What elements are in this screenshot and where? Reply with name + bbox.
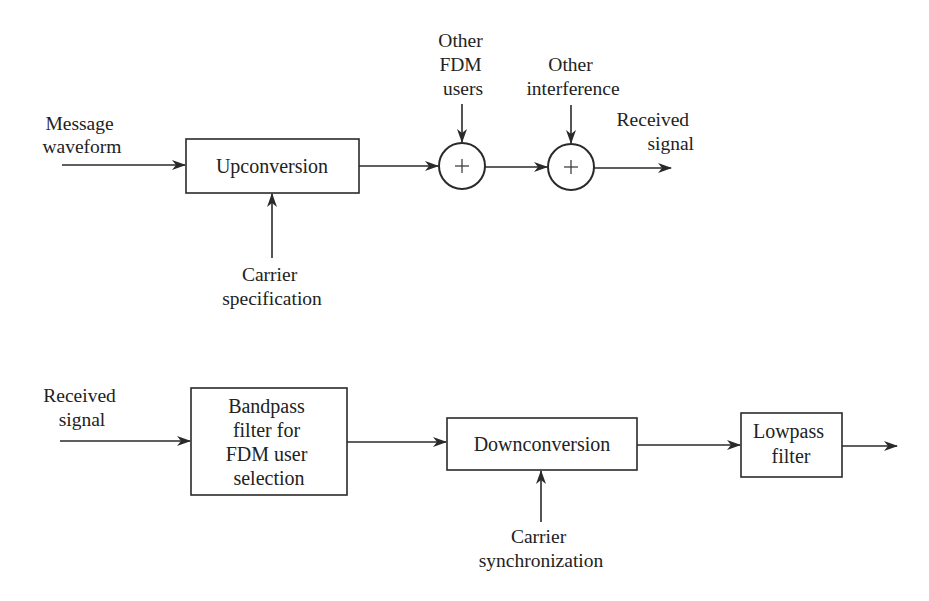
other-fdm-users-label: Other FDM users (438, 30, 487, 99)
upconversion-block: Upconversion (186, 139, 359, 193)
bandpass-filter-block: Bandpass filter for FDM user selection (191, 388, 347, 495)
other-interference-label: Other interference (526, 54, 619, 99)
lowpass-filter-block: Lowpass filter (741, 413, 842, 477)
fdm-block-diagram: Message waveform Upconversion Carrier sp… (0, 0, 929, 601)
received-signal-input-label: Received signal (43, 385, 120, 430)
adder-1 (439, 143, 485, 189)
received-signal-output-label: Received signal (617, 109, 695, 154)
upconversion-label: Upconversion (216, 155, 328, 178)
message-waveform-label: Message waveform (42, 113, 121, 157)
downconversion-block: Downconversion (447, 418, 637, 470)
receiver-diagram: Received signal Bandpass filter for FDM … (43, 385, 897, 571)
downconversion-label: Downconversion (474, 433, 611, 455)
carrier-specification-label: Carrier specification (222, 264, 322, 309)
transmitter-diagram: Message waveform Upconversion Carrier sp… (42, 30, 694, 309)
adder-2 (548, 144, 594, 190)
carrier-synchronization-label: Carrier synchronization (479, 526, 604, 571)
